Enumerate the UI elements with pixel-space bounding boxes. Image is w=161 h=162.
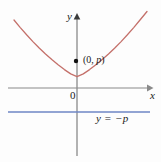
- plot-canvas: [0, 0, 161, 162]
- y-axis-arrowhead-icon: [74, 13, 81, 20]
- focus-label-open: (0,: [83, 54, 96, 65]
- directrix-label-equals: =: [101, 112, 115, 124]
- parabola-curve: [14, 12, 147, 77]
- focus-label-close: ): [101, 54, 104, 65]
- origin-label: 0: [70, 90, 76, 101]
- directrix-label-variable: p: [123, 112, 129, 124]
- y-axis: [74, 13, 81, 156]
- y-axis-label: y: [67, 11, 72, 22]
- focus-point-label: (0, p): [83, 55, 105, 65]
- focus-point-marker: [74, 59, 78, 63]
- x-axis: [8, 85, 154, 92]
- parabola-figure: y x 0 (0, p) y = −p: [0, 0, 161, 162]
- directrix-label: y = −p: [96, 113, 128, 124]
- directrix-label-minus: −: [115, 112, 123, 124]
- x-axis-label: x: [150, 90, 155, 101]
